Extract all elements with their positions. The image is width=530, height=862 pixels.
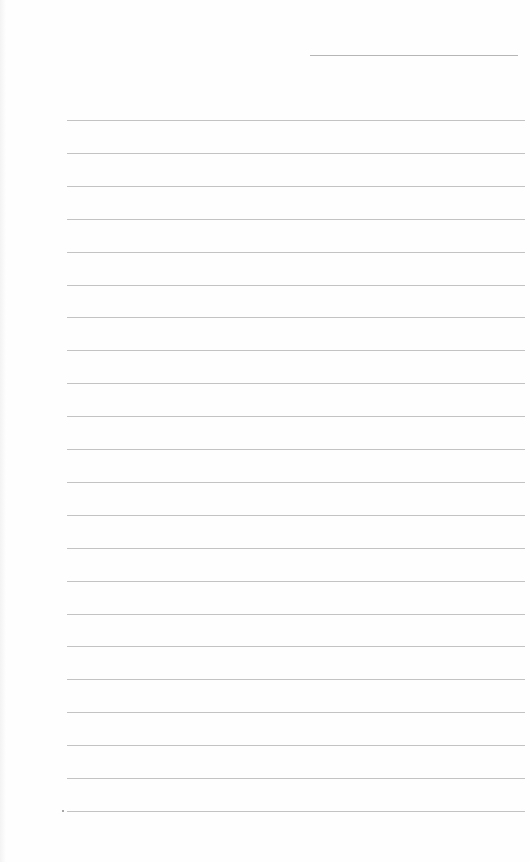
page-edge-shadow [0, 0, 6, 862]
writing-line [67, 548, 525, 549]
writing-line [67, 482, 525, 483]
writing-line [67, 581, 525, 582]
writing-line [67, 186, 525, 187]
writing-line [67, 515, 525, 516]
writing-line [67, 712, 525, 713]
writing-line [67, 120, 525, 121]
writing-line [67, 449, 525, 450]
writing-line [67, 153, 525, 154]
writing-line [67, 614, 525, 615]
writing-line [67, 811, 525, 812]
header-name-line [310, 55, 518, 56]
writing-line [67, 219, 525, 220]
writing-line [67, 285, 525, 286]
writing-line [67, 317, 525, 318]
writing-line [67, 350, 525, 351]
lined-paper-page [0, 0, 530, 862]
writing-line [67, 252, 525, 253]
writing-line [67, 778, 525, 779]
writing-line [67, 745, 525, 746]
writing-line [67, 416, 525, 417]
writing-line [67, 646, 525, 647]
writing-line [67, 679, 525, 680]
writing-line [67, 383, 525, 384]
margin-dot [62, 810, 64, 812]
